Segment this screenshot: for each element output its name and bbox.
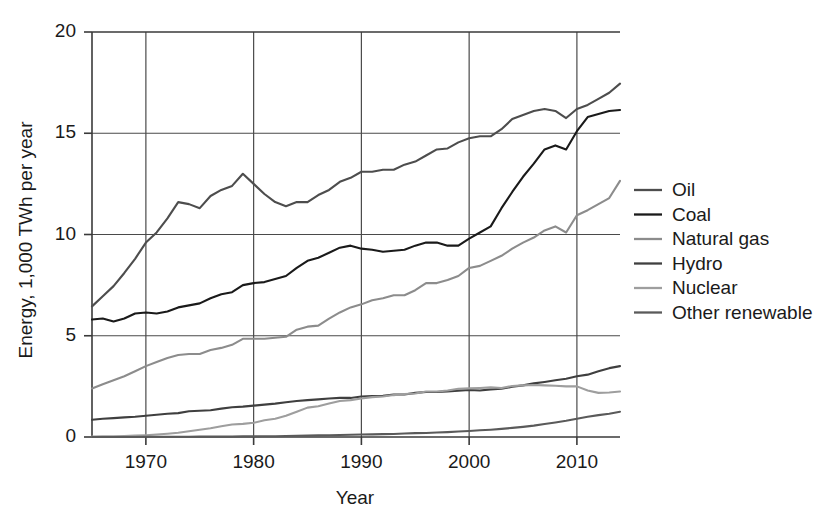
x-tick-label: 1970 (125, 451, 167, 472)
legend-label-hydro[interactable]: Hydro (672, 253, 723, 274)
x-tick-label: 1990 (340, 451, 382, 472)
gridlines (92, 32, 620, 437)
energy-line-chart: 05101520 19701980199020002010 OilCoalNat… (0, 0, 832, 523)
y-tick-label: 15 (55, 121, 76, 142)
x-tick-label: 2010 (556, 451, 598, 472)
y-tick-label: 0 (65, 425, 76, 446)
y-tick-label: 10 (55, 223, 76, 244)
series-line-nuclear (92, 385, 620, 437)
chart-figure: 05101520 19701980199020002010 OilCoalNat… (0, 0, 832, 523)
x-axis-title: Year (336, 487, 375, 508)
data-series (92, 84, 620, 437)
x-axis-tick-labels: 19701980199020002010 (125, 451, 598, 472)
series-line-oil (92, 84, 620, 307)
y-axis-title: Energy, 1,000 TWh per year (15, 121, 36, 359)
legend-label-nuclear[interactable]: Nuclear (672, 277, 738, 298)
series-line-hydro (92, 366, 620, 420)
y-tick-label: 20 (55, 20, 76, 41)
y-axis-tick-labels: 05101520 (55, 20, 76, 446)
legend-label-oil[interactable]: Oil (672, 179, 695, 200)
tick-marks (84, 32, 577, 445)
y-tick-label: 5 (65, 324, 76, 345)
x-tick-label: 2000 (448, 451, 490, 472)
chart-legend: OilCoalNatural gasHydroNuclearOther rene… (634, 179, 812, 323)
x-tick-label: 1980 (232, 451, 274, 472)
legend-label-other-renewable[interactable]: Other renewable (672, 302, 812, 323)
legend-label-coal[interactable]: Coal (672, 204, 711, 225)
series-line-coal (92, 110, 620, 322)
legend-label-natural-gas[interactable]: Natural gas (672, 228, 769, 249)
